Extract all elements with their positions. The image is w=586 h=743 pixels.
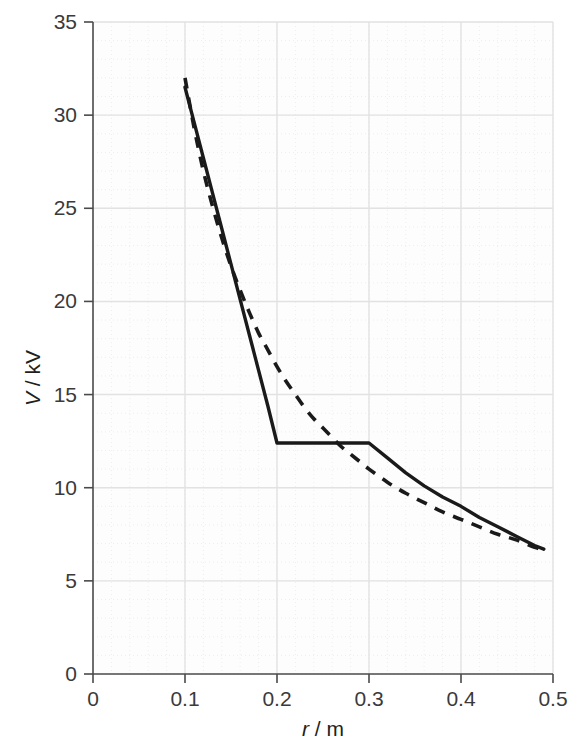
y-tick-label: 0 <box>65 662 77 685</box>
chart-figure: 00.10.20.30.40.5 05101520253035 r / m V … <box>0 0 586 743</box>
y-tick-label: 20 <box>54 289 77 312</box>
y-axis-title: V / kV <box>21 350 44 406</box>
x-tick-label: 0.3 <box>354 687 383 710</box>
plot-area-background <box>93 22 553 674</box>
y-tick-label: 15 <box>54 383 77 406</box>
x-axis-title: r / m <box>302 717 344 740</box>
y-tick-label: 25 <box>54 196 77 219</box>
y-tick-label: 35 <box>54 10 77 33</box>
x-tick-label: 0.5 <box>538 687 567 710</box>
x-tick-label: 0.4 <box>446 687 476 710</box>
x-tick-label: 0.1 <box>170 687 199 710</box>
x-tick-label: 0.2 <box>262 687 291 710</box>
y-tick-label: 10 <box>54 476 77 499</box>
y-tick-label: 30 <box>54 103 77 126</box>
x-tick-label: 0 <box>87 687 99 710</box>
y-tick-label: 5 <box>65 569 77 592</box>
chart-svg: 00.10.20.30.40.5 05101520253035 r / m V … <box>0 0 586 743</box>
